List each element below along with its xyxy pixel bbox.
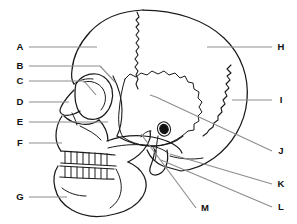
- coronal-suture: [135, 12, 139, 89]
- label-K[interactable]: K: [278, 178, 285, 189]
- label-B[interactable]: B: [17, 60, 24, 71]
- squamous-suture: [113, 76, 122, 136]
- maxilla-anterior-border: [56, 116, 62, 151]
- mandible-inner-contour: [110, 169, 121, 208]
- leader-line-J: [156, 97, 272, 151]
- mandible-outline: [54, 162, 146, 216]
- upper-teeth-group: [65, 151, 107, 165]
- leader-lines-group: [29, 47, 272, 208]
- leader-line-J-hook: [150, 95, 156, 97]
- external-auditory-meatus-icon: [159, 123, 170, 135]
- maxilla-outline: [99, 120, 108, 141]
- orbital-inner-detail: [84, 81, 105, 110]
- leader-line-C-hook: [84, 81, 96, 95]
- label-A[interactable]: A: [17, 41, 24, 52]
- infraorbital-line: [80, 126, 101, 140]
- mandibular-teeth-occlusal-line: [60, 166, 114, 169]
- label-C[interactable]: C: [17, 75, 24, 86]
- label-E[interactable]: E: [17, 116, 23, 127]
- label-L[interactable]: L: [278, 201, 284, 212]
- leader-line-K: [170, 154, 272, 184]
- label-I[interactable]: I: [280, 94, 283, 105]
- cranium-outline: [143, 10, 247, 171]
- label-D[interactable]: D: [17, 96, 24, 107]
- label-F[interactable]: F: [17, 137, 23, 148]
- mental-protuberance: [62, 188, 86, 196]
- label-M[interactable]: M: [201, 202, 209, 213]
- lower-teeth-group: [65, 166, 107, 178]
- skull-diagram-figure: A B C D E F G H I J K L M: [0, 0, 297, 224]
- label-H[interactable]: H: [278, 41, 285, 52]
- label-J[interactable]: J: [278, 145, 283, 156]
- nasal-bone: [60, 90, 80, 115]
- mastoid-process: [150, 150, 168, 175]
- nasal-septum-line: [72, 113, 77, 125]
- label-G[interactable]: G: [16, 191, 23, 202]
- nasal-aperture: [64, 116, 99, 124]
- skull-outline-group: [54, 10, 247, 216]
- mandibular-alveolar-border: [60, 177, 114, 179]
- skull-illustration: A B C D E F G H I J K L M: [0, 0, 297, 224]
